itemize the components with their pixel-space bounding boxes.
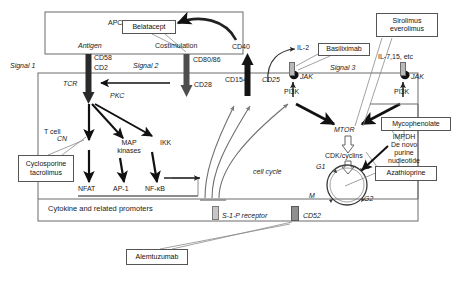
label-mtor: MTOR xyxy=(334,126,354,134)
label-cd58: CD58 xyxy=(94,54,112,62)
drug-box-sirolimus-everolimus[interactable]: Sirolimus everolimus xyxy=(376,13,438,37)
receptor-il7-15 xyxy=(400,62,406,76)
drug-box-belatacept[interactable]: Belatacept xyxy=(122,20,176,34)
label-nf-kb: NF-κB xyxy=(145,185,165,193)
label-il7-15: IL-7,15, etc xyxy=(378,53,413,61)
label-costimulation: Costimulation xyxy=(155,42,197,50)
label-signal-3: Signal 3 xyxy=(330,64,355,72)
label-pi3k-right: PI3K xyxy=(394,88,409,96)
label-ap1: AP-1 xyxy=(113,185,129,193)
label-cd80-86: CD80/86 xyxy=(193,56,221,64)
label-nfat: NFAT xyxy=(78,185,95,193)
label-cdk-cyclins: CDK/cyclins xyxy=(325,152,363,160)
label-apc: APC xyxy=(108,19,122,27)
receptor-cd25 xyxy=(289,62,295,76)
label-cell-cycle: cell cycle xyxy=(253,168,281,176)
label-il2: IL-2 xyxy=(297,44,309,52)
label-phase-s: S xyxy=(365,163,370,171)
drug-box-basiliximab[interactable]: Basiliximab xyxy=(318,43,370,56)
receptor-s1p xyxy=(212,206,219,220)
label-signal-1: Signal 1 xyxy=(10,62,35,70)
drug-box-mycophenolate[interactable]: Mycophenolate xyxy=(381,117,451,131)
label-promoters: Cytokine and related promoters xyxy=(48,205,153,213)
label-cd25: CD25 xyxy=(262,76,280,84)
drug-box-azathioprine[interactable]: Azathioprine xyxy=(375,166,437,181)
label-ikk: IKK xyxy=(160,139,171,147)
label-pi3k-left: PI3K xyxy=(284,88,299,96)
label-cd52: CD52 xyxy=(303,212,321,220)
label-antigen: Antigen xyxy=(78,42,102,50)
label-phase-g1: G1 xyxy=(316,163,325,171)
drug-box-cyclosporine-tacrolimus[interactable]: Cyclosporine tacrolimus xyxy=(18,155,74,182)
label-signal-2: Signal 2 xyxy=(133,62,158,70)
label-jak-right: JAK xyxy=(411,73,424,81)
label-map-kinases: MAP kinases xyxy=(117,139,141,155)
immunosuppression-pathway-diagram: APC Antigen Costimulation CD40 CD58 CD2 … xyxy=(0,0,457,281)
label-impdh: IMPDH De novo purine nucleotide xyxy=(388,133,420,165)
label-cd40: CD40 xyxy=(232,43,250,51)
label-cn: CN xyxy=(57,135,67,143)
label-tcr: TCR xyxy=(63,80,77,88)
label-cd154: CD154 xyxy=(225,76,247,84)
drug-box-alemtuzumab[interactable]: Alemtuzumab xyxy=(126,249,188,265)
receptor-cd52 xyxy=(291,206,299,221)
label-jak-left: JAK xyxy=(300,73,313,81)
label-cd28: CD28 xyxy=(194,81,212,89)
label-phase-m: M xyxy=(309,192,315,200)
label-cd2: CD2 xyxy=(94,64,108,72)
label-s1p-receptor: S-1-P receptor xyxy=(222,212,267,220)
label-phase-g2: G2 xyxy=(364,195,373,203)
label-pkc: PKC xyxy=(110,92,124,100)
